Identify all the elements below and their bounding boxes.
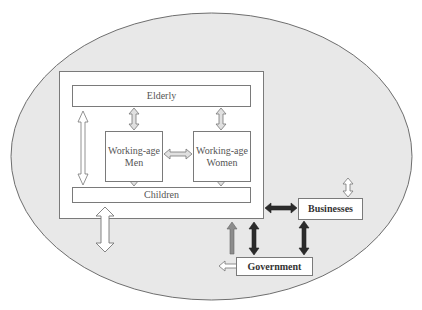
elderly-box: Elderly — [72, 85, 251, 107]
women-label-line1: Working-age — [196, 145, 248, 157]
elderly-label: Elderly — [147, 90, 176, 102]
businesses-label: Businesses — [308, 203, 353, 215]
women-label-line2: Women — [207, 157, 238, 169]
working-age-men-box: Working-age Men — [105, 131, 163, 182]
businesses-box: Businesses — [298, 198, 363, 220]
children-label: Children — [144, 189, 179, 201]
men-label-line1: Working-age — [108, 145, 160, 157]
working-age-women-box: Working-age Women — [193, 131, 251, 182]
government-label: Government — [248, 261, 302, 273]
men-label-line2: Men — [125, 157, 143, 169]
government-box: Government — [236, 257, 313, 276]
children-box: Children — [72, 187, 251, 203]
diagram-canvas: Elderly Working-age Men Working-age Wome… — [0, 0, 422, 310]
